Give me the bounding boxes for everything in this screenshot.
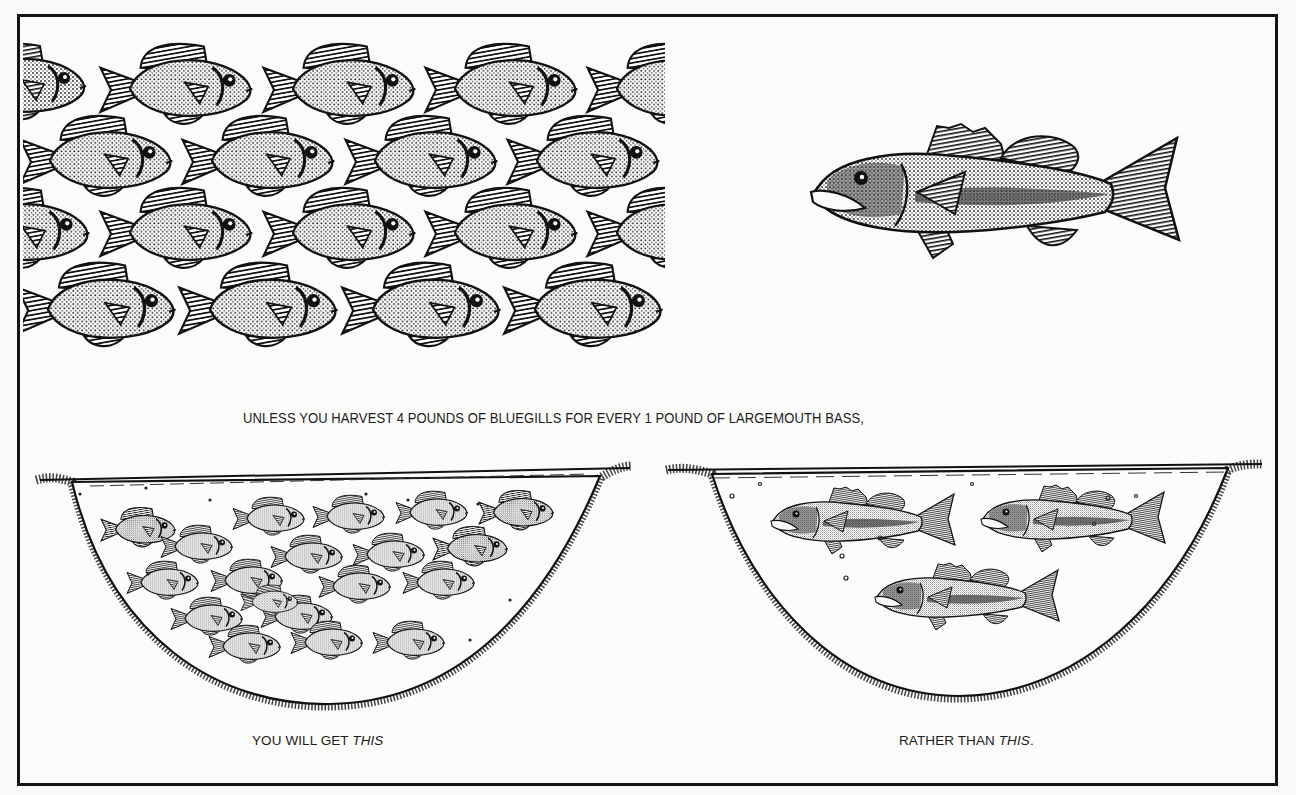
pond-bluegills bbox=[36, 466, 632, 706]
pond-bass bbox=[666, 464, 1262, 698]
right-pond-caption: RATHER THAN THIS. bbox=[899, 733, 1034, 748]
bluegill-school-pattern bbox=[0, 43, 739, 346]
right-caption-period: . bbox=[1030, 733, 1034, 748]
right-caption-emphasis: THIS bbox=[999, 733, 1030, 748]
left-caption-text: YOU WILL GET bbox=[252, 733, 352, 748]
right-caption-text: RATHER THAN bbox=[899, 733, 999, 748]
illustration-canvas bbox=[0, 0, 1296, 795]
main-caption: UNLESS YOU HARVEST 4 POUNDS OF BLUEGILLS… bbox=[243, 410, 864, 426]
largemouth-bass-illustration bbox=[811, 124, 1179, 258]
left-caption-emphasis: THIS bbox=[352, 733, 383, 748]
left-pond-caption: YOU WILL GET THIS bbox=[252, 733, 383, 748]
